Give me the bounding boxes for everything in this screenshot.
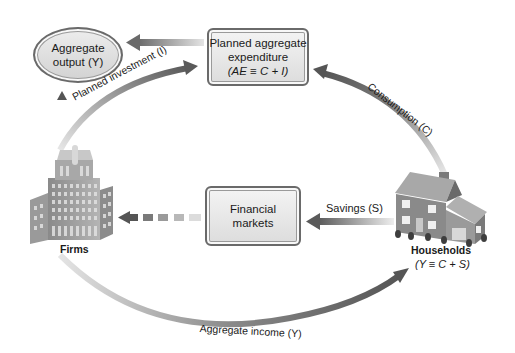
savings-arrow (306, 213, 394, 230)
households-label: Households (411, 244, 471, 256)
financial-markets-node: Financial markets (205, 186, 301, 246)
aggregate-output-line2: output (Y) (51, 55, 104, 69)
house-icon (395, 172, 487, 247)
planned-expenditure-line1: Planned aggregate (209, 36, 306, 50)
aggregate-output-line1: Aggregate (51, 41, 104, 55)
investment-funds-dashed-arrow (118, 211, 201, 224)
planned-expenditure-line2: expenditure (209, 50, 306, 64)
savings-label: Savings (S) (326, 202, 383, 214)
consumption-arrow (313, 64, 445, 175)
office-building-icon (30, 145, 113, 244)
planned-expenditure-identity: (AE ≡ C + I) (209, 64, 306, 78)
financial-markets-line2: markets (230, 216, 276, 230)
planned-expenditure-node: Planned aggregate expenditure (AE ≡ C + … (207, 28, 309, 86)
households-identity: (Y ≡ C + S) (415, 258, 470, 270)
output-pointer-triangle (57, 91, 67, 100)
firms-label: Firms (60, 243, 89, 255)
aggregate-income-arrow (60, 255, 409, 324)
financial-markets-line1: Financial (230, 202, 276, 216)
